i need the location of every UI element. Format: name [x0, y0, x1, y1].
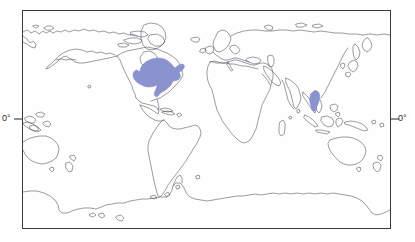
map-canvas [0, 0, 415, 242]
equator-label-left: 0° [2, 114, 11, 123]
equator-label-right: 0° [398, 114, 407, 123]
world-distribution-map: 0° 0° [0, 0, 415, 242]
map-frame [23, 11, 391, 229]
